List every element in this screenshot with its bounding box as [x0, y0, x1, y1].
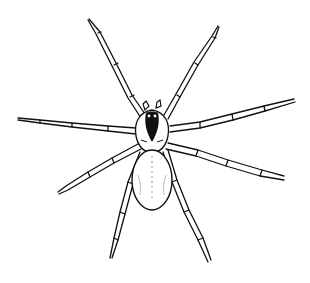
abdomen: [132, 150, 172, 210]
pedipalps: [143, 100, 161, 110]
leg-front-right: [164, 26, 219, 119]
leg-third-left: [58, 144, 141, 194]
leg-second-left: [18, 118, 136, 134]
cephalothorax: [136, 110, 169, 153]
spider-drawing: [0, 0, 310, 283]
leg-second-right: [170, 99, 295, 132]
leg-front-left: [88, 19, 145, 118]
spider-illustration: [0, 0, 310, 283]
leg-third-right: [166, 143, 284, 180]
